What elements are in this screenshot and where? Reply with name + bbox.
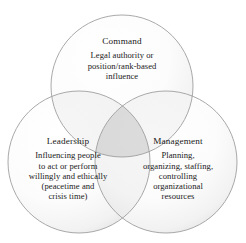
set-description-line: organizational <box>118 181 238 191</box>
set-title-management: Management <box>118 136 238 147</box>
venn-diagram: Command Legal authority or position/rank… <box>0 0 246 243</box>
set-description-line: organizing, staffing, <box>118 161 238 171</box>
set-description-line: resources <box>118 191 238 201</box>
set-description-line: controlling <box>118 171 238 181</box>
set-description-line: influence <box>62 71 182 81</box>
set-label-management: Management Planning, organizing, staffin… <box>118 136 238 201</box>
set-title-leadership: Leadership <box>8 136 128 147</box>
set-title-command: Command <box>62 36 182 47</box>
set-description-line: Planning, <box>118 150 238 160</box>
set-description-line: crisis time) <box>8 191 128 201</box>
set-description-management: Planning, organizing, staffing, controll… <box>118 150 238 201</box>
set-description-line: Legal authority or <box>62 50 182 60</box>
set-description-command: Legal authority or position/rank-based i… <box>62 50 182 80</box>
set-label-leadership: Leadership Influencing people to act or … <box>8 136 128 201</box>
set-description-line: to act or perform <box>8 161 128 171</box>
set-label-command: Command Legal authority or position/rank… <box>62 36 182 81</box>
set-description-line: (peacetime and <box>8 181 128 191</box>
set-description-line: willingly and ethically <box>8 171 128 181</box>
set-description-leadership: Influencing people to act or perform wil… <box>8 150 128 201</box>
set-description-line: Influencing people <box>8 150 128 160</box>
set-description-line: position/rank-based <box>62 61 182 71</box>
